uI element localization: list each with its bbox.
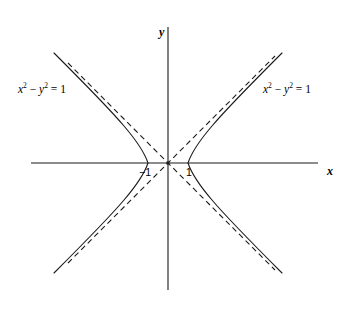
eq-right-x-exp: 2 — [268, 81, 272, 90]
eq-right-y-exp: 2 — [289, 81, 293, 90]
x-tick-label-pos-one: 1 — [186, 167, 192, 178]
eq-right-minus: − — [275, 83, 282, 95]
equation-label-right: x2 − y2 = 1 — [263, 84, 311, 96]
eq-left-equals: = — [51, 83, 58, 95]
y-axis-label: y — [159, 26, 164, 38]
eq-left-x-exp: 2 — [23, 81, 27, 90]
figure-root: FIGURE x2 − y2 = 1 x2 − y2 = 1 y x −1 1 — [0, 0, 348, 314]
asymptote-negative-slope — [68, 63, 275, 270]
equation-label-left: x2 − y2 = 1 — [18, 84, 66, 96]
eq-left-rhs: 1 — [60, 83, 66, 95]
eq-left-minus: − — [30, 83, 37, 95]
x-tick-label-neg-one: −1 — [139, 167, 151, 178]
x-axis-label: x — [327, 165, 333, 177]
eq-right-equals: = — [296, 83, 303, 95]
eq-right-rhs: 1 — [305, 83, 311, 95]
eq-left-y-exp: 2 — [44, 81, 48, 90]
origin-point — [166, 161, 169, 164]
hyperbola-plot — [0, 0, 348, 314]
asymptote-positive-slope — [68, 56, 275, 263]
